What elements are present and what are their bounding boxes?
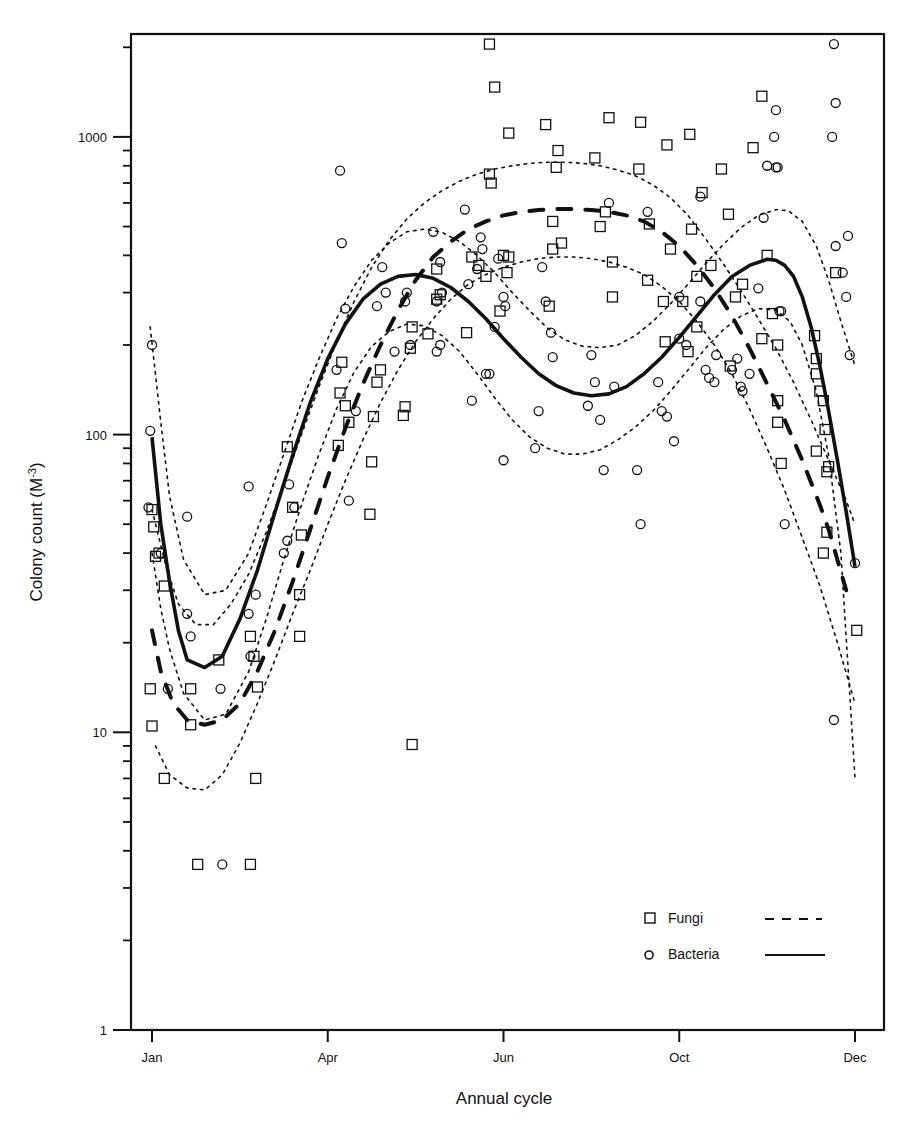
- fungi-data-point: [372, 377, 382, 387]
- fungi-fit-curve: [152, 209, 846, 725]
- bacteria-data-point: [771, 106, 780, 115]
- bacteria-data-point: [436, 257, 445, 266]
- bacteria-data-point: [587, 351, 596, 360]
- bacteria-data-point: [838, 268, 847, 277]
- bacteria-data-point: [337, 239, 346, 248]
- bacteria-data-point: [828, 132, 837, 141]
- fungi-data-point: [462, 328, 472, 338]
- bacteria-data-point: [499, 292, 508, 301]
- fungi-data-point: [340, 401, 350, 411]
- bacteria-data-point: [599, 466, 608, 475]
- bacteria-data-point: [538, 263, 547, 272]
- bacteria-ci-lower-curve: [152, 309, 855, 779]
- fungi-data-point: [159, 773, 169, 783]
- fungi-data-point: [820, 425, 830, 435]
- bacteria-data-point: [636, 520, 645, 529]
- bacteria-data-point: [643, 207, 652, 216]
- chart-canvas: 1101001000 JanAprJunOctDec Annual cycle …: [0, 0, 904, 1132]
- bacteria-data-point: [467, 396, 476, 405]
- fungi-data-point: [368, 412, 378, 422]
- bacteria-data-point: [845, 351, 854, 360]
- bacteria-data-point: [763, 161, 772, 170]
- plot-area-frame: [131, 34, 884, 1030]
- fungi-data-point: [852, 625, 862, 635]
- bacteria-data-point: [596, 415, 605, 424]
- legend-fungi-marker-square-icon: [645, 913, 655, 923]
- fungi-data-point: [481, 271, 491, 281]
- fungi-data-point: [773, 340, 783, 350]
- fungi-data-point: [186, 684, 196, 694]
- legend-bacteria-marker-circle-icon: [645, 951, 653, 959]
- bacteria-data-point: [829, 715, 838, 724]
- bacteria-data-point: [831, 242, 840, 251]
- fungi-ci-lower-curve: [156, 257, 856, 790]
- bacteria-data-point: [633, 466, 642, 475]
- x-axis-title: Annual cycle: [456, 1089, 552, 1108]
- fungi-data-point: [252, 682, 262, 692]
- bacteria-data-point: [712, 351, 721, 360]
- fungi-data-point: [484, 39, 494, 49]
- y-tick-label: 1: [100, 1023, 107, 1038]
- legend: Fungi Bacteria: [645, 910, 825, 962]
- bacteria-data-point: [251, 590, 260, 599]
- fungi-data-point: [502, 268, 512, 278]
- bacteria-data-point: [460, 205, 469, 214]
- fungi-data-point: [548, 216, 558, 226]
- fungi-data-point: [553, 146, 563, 156]
- bacteria-data-point: [682, 340, 691, 349]
- fungi-data-point: [245, 859, 255, 869]
- fungi-data-point: [687, 224, 697, 234]
- bacteria-data-point: [285, 480, 294, 489]
- bacteria-data-point: [590, 378, 599, 387]
- bacteria-data-point: [759, 213, 768, 222]
- fungi-data-point: [600, 207, 610, 217]
- legend-bacteria-label: Bacteria: [668, 946, 720, 962]
- fungi-data-point: [604, 113, 614, 123]
- x-tick-label: Oct: [669, 1050, 690, 1065]
- fungi-data-point: [149, 522, 159, 532]
- fungi-data-point: [490, 82, 500, 92]
- fungi-data-point: [811, 446, 821, 456]
- fungi-data-point: [375, 365, 385, 375]
- fungi-data-point: [365, 509, 375, 519]
- bacteria-data-point: [843, 231, 852, 240]
- bacteria-data-point: [476, 233, 485, 242]
- bacteria-data-point: [344, 496, 353, 505]
- fungi-data-point: [251, 773, 261, 783]
- legend-fungi-label: Fungi: [668, 910, 703, 926]
- bacteria-data-point: [534, 407, 543, 416]
- bacteria-data-point: [829, 40, 838, 49]
- fungi-data-point: [818, 548, 828, 558]
- fungi-data-point: [643, 275, 653, 285]
- fungi-data-point: [634, 164, 644, 174]
- x-tick-label: Jan: [142, 1050, 163, 1065]
- bacteria-data-point: [654, 378, 663, 387]
- fungi-data-point: [757, 334, 767, 344]
- fungi-data-point: [757, 91, 767, 101]
- fungi-data-point: [541, 120, 551, 130]
- fungi-data-point: [296, 530, 306, 540]
- x-axis: JanAprJunOctDec: [142, 1030, 868, 1065]
- bacteria-data-point: [583, 401, 592, 410]
- fungi-data-point: [723, 209, 733, 219]
- bacteria-data-point: [780, 520, 789, 529]
- bacteria-data-point: [548, 353, 557, 362]
- fungi-data-point: [738, 279, 748, 289]
- bacteria-data-point: [341, 304, 350, 313]
- fungi-data-point: [147, 721, 157, 731]
- bacteria-data-point: [244, 482, 253, 491]
- y-tick-label: 100: [85, 428, 107, 443]
- bacteria-data-point: [351, 407, 360, 416]
- fungi-data-point: [295, 631, 305, 641]
- y-axis-title-main: Colony count (M: [27, 478, 46, 602]
- fungi-data-point: [145, 684, 155, 694]
- y-axis-title-superscript: -3: [26, 468, 38, 478]
- bacteria-data-point: [183, 609, 192, 618]
- fungi-data-point: [159, 581, 169, 591]
- bacteria-data-point: [244, 609, 253, 618]
- bacteria-data-point: [531, 444, 540, 453]
- fungi-data-point: [748, 143, 758, 153]
- bacteria-data-point: [464, 280, 473, 289]
- x-tick-label: Apr: [318, 1050, 339, 1065]
- y-axis-title: Colony count (M-3): [26, 462, 46, 601]
